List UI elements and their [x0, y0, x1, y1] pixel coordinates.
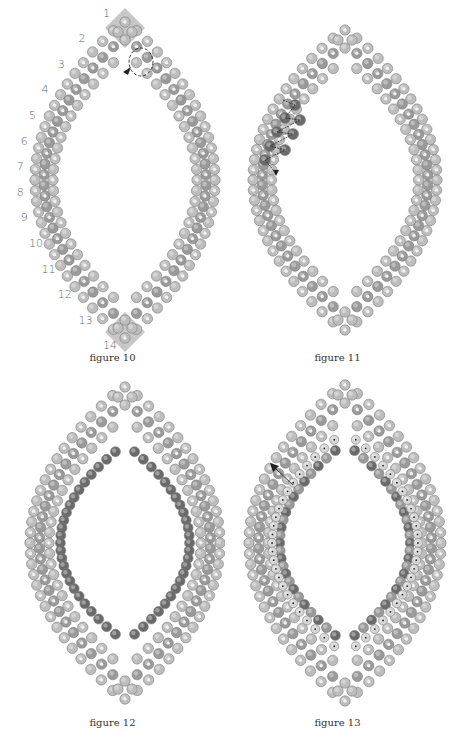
bead — [328, 286, 338, 296]
row-label-12: 12 — [58, 288, 72, 301]
bead — [194, 517, 204, 527]
bead — [305, 666, 315, 676]
bead — [307, 296, 317, 306]
bead — [70, 612, 80, 622]
bead — [187, 580, 197, 590]
thread-arrow-icon — [123, 67, 131, 75]
bead — [108, 41, 118, 51]
bead — [280, 458, 290, 468]
bead — [278, 442, 288, 452]
row-label-10: 10 — [29, 237, 43, 250]
top-tip-bead — [340, 25, 350, 35]
bead — [160, 89, 170, 99]
bead — [436, 538, 446, 548]
bead — [280, 618, 290, 628]
bead — [205, 533, 215, 543]
figure-12-panel: figure 12 — [0, 365, 225, 730]
bead — [409, 205, 419, 215]
bead — [181, 633, 191, 643]
bead — [328, 301, 338, 311]
bead — [266, 175, 276, 185]
bead — [400, 458, 410, 468]
row-label-5: 5 — [29, 109, 36, 122]
bead — [163, 438, 173, 448]
bead — [305, 410, 315, 420]
bead — [131, 57, 141, 67]
bead — [49, 506, 59, 516]
bead — [382, 63, 392, 73]
bead — [153, 443, 163, 453]
bead — [98, 68, 108, 78]
bead — [373, 634, 383, 644]
bead — [316, 431, 326, 441]
bead — [98, 297, 108, 307]
bead — [307, 68, 317, 78]
bead — [363, 43, 373, 53]
bead — [183, 485, 193, 495]
bead — [401, 225, 411, 235]
added-dark-bead — [288, 129, 299, 140]
bead — [307, 53, 317, 63]
inner-ring-bead — [146, 614, 156, 624]
inner-ring-bead — [94, 614, 104, 624]
row-label-9: 9 — [21, 211, 28, 224]
bead — [56, 132, 66, 142]
bottom-tip-bead — [120, 333, 130, 343]
bead — [132, 406, 142, 416]
bead — [25, 538, 35, 548]
bead — [167, 249, 177, 259]
bead — [161, 292, 171, 302]
added-dark-bead — [295, 115, 306, 126]
bead — [48, 185, 58, 195]
bead — [306, 650, 316, 660]
bead — [52, 496, 62, 506]
bead — [408, 452, 418, 462]
bead — [143, 659, 153, 669]
bead — [60, 228, 70, 238]
bead — [154, 411, 164, 421]
bead — [317, 58, 327, 68]
bead — [164, 422, 174, 432]
bead — [395, 114, 405, 124]
figure-11-panel: figure 11 — [225, 0, 450, 365]
bead — [307, 281, 317, 291]
bead — [291, 246, 301, 256]
bead — [170, 68, 180, 78]
bead — [390, 89, 400, 99]
bead — [317, 276, 327, 286]
bead — [408, 623, 418, 633]
bead — [435, 527, 445, 537]
tip-cluster-bead — [120, 400, 130, 410]
bead — [383, 639, 393, 649]
bead — [52, 580, 62, 590]
bead — [34, 533, 44, 543]
bead — [46, 559, 56, 569]
bead — [25, 548, 35, 558]
bead — [71, 265, 81, 275]
bead — [30, 175, 40, 185]
bead — [195, 527, 205, 537]
bead — [214, 527, 224, 537]
bead — [244, 538, 254, 548]
bead — [143, 432, 153, 442]
bead — [391, 276, 401, 286]
bead — [190, 196, 200, 206]
bead — [142, 297, 152, 307]
bead — [210, 175, 220, 185]
bead — [170, 612, 180, 622]
bead — [151, 79, 161, 89]
bead — [132, 669, 142, 679]
bead — [52, 143, 62, 153]
bead — [363, 644, 373, 654]
bead — [383, 436, 393, 446]
bead — [195, 548, 205, 558]
bead — [297, 286, 307, 296]
bead — [317, 43, 327, 53]
bead — [48, 175, 58, 185]
bead — [143, 401, 153, 411]
bead — [316, 676, 326, 686]
bead — [248, 175, 258, 185]
bead — [215, 538, 225, 548]
bead — [382, 79, 392, 89]
row-label-2: 2 — [78, 32, 85, 45]
